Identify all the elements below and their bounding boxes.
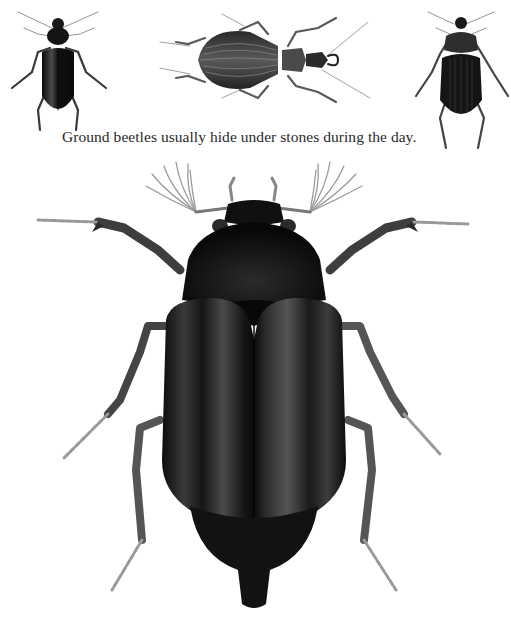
beetle-large bbox=[38, 162, 468, 608]
beetle-top-center bbox=[160, 14, 370, 102]
leg-hind-right bbox=[348, 420, 396, 590]
antenna-right bbox=[278, 162, 362, 212]
beetle-head bbox=[224, 200, 284, 225]
beetle-top-left bbox=[12, 12, 106, 130]
illustration-canvas: Ground beetles usually hide under stones… bbox=[0, 0, 511, 618]
leg-mid-left bbox=[64, 326, 168, 458]
beetle-pronotum bbox=[182, 222, 326, 306]
beetle-illustrations bbox=[0, 0, 511, 618]
leg-mid-right bbox=[340, 326, 440, 454]
leg-front-left bbox=[38, 220, 180, 270]
leg-hind-left bbox=[112, 420, 160, 590]
antenna-left bbox=[146, 162, 228, 212]
caption-text: Ground beetles usually hide under stones… bbox=[62, 128, 462, 146]
beetle-abdomen bbox=[190, 506, 318, 608]
leg-front-right bbox=[330, 222, 468, 270]
